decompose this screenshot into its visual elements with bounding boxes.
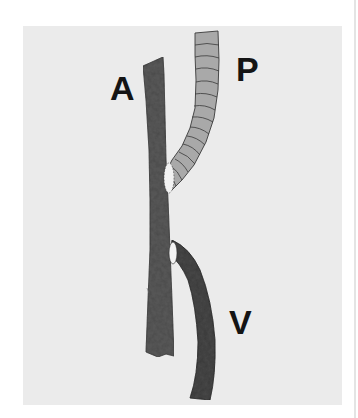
pulmonary-vessel bbox=[166, 31, 219, 190]
upper-anastomosis bbox=[164, 163, 174, 193]
vessel-anastomosis-diagram bbox=[0, 0, 358, 418]
label-artery: A bbox=[110, 71, 135, 105]
label-pulmonary: P bbox=[236, 52, 259, 86]
lower-anastomosis bbox=[169, 242, 177, 264]
label-vein: V bbox=[229, 305, 252, 339]
vein-vessel bbox=[170, 240, 215, 400]
artery-vessel bbox=[143, 57, 174, 357]
